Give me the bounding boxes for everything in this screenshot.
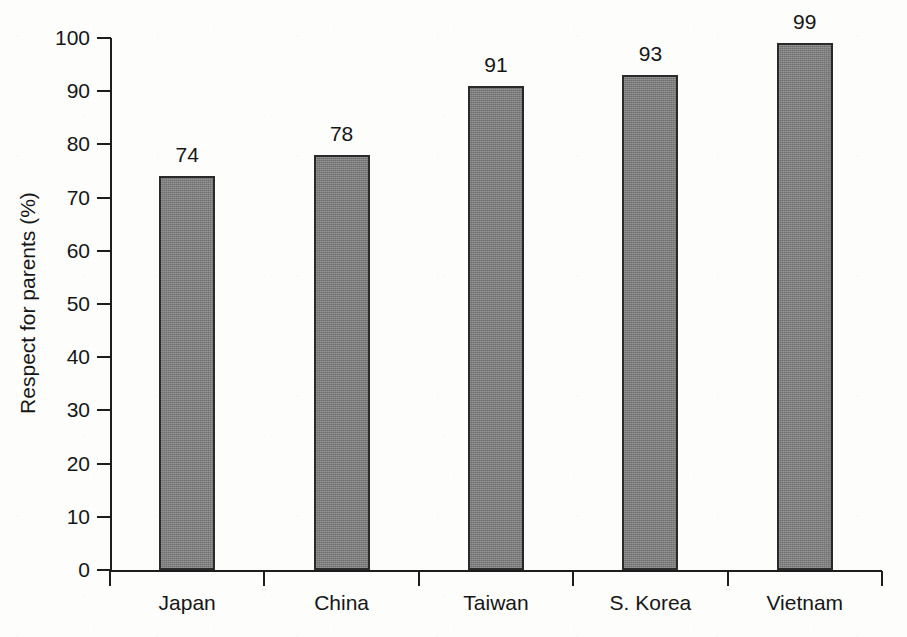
bar-s-korea [622, 75, 678, 570]
y-axis-tick-label: 0 [28, 559, 90, 580]
y-axis-tick [97, 143, 111, 145]
y-axis-tick-label: 100 [28, 27, 90, 48]
x-axis-category-label: Vietnam [725, 592, 885, 613]
y-axis-line [110, 38, 112, 572]
y-axis-tick [97, 409, 111, 411]
x-axis-tick [572, 571, 574, 586]
x-axis-tick [727, 571, 729, 586]
bar-value-label: 91 [456, 54, 536, 75]
bar-vietnam [777, 43, 833, 570]
bar-value-label: 93 [610, 43, 690, 64]
x-axis-tick [263, 571, 265, 586]
bar-value-label: 78 [302, 123, 382, 144]
y-axis-tick [97, 516, 111, 518]
y-axis-tick [97, 197, 111, 199]
y-axis-tick [97, 356, 111, 358]
x-axis-category-label: Taiwan [416, 592, 576, 613]
x-axis-category-label: S. Korea [570, 592, 730, 613]
bar-china [314, 155, 370, 570]
y-axis-title: Respect for parents (%) [16, 93, 40, 513]
y-axis-tick [97, 463, 111, 465]
plot-area: 010203040506070809010074Japan78China91Ta… [0, 0, 907, 637]
x-axis-start-tick [109, 571, 111, 586]
x-axis-tick [418, 571, 420, 586]
y-axis-tick [97, 250, 111, 252]
y-axis-tick [97, 303, 111, 305]
x-axis-category-label: China [262, 592, 422, 613]
x-axis-end-tick [881, 571, 883, 586]
x-axis-line [110, 570, 882, 572]
bar-japan [159, 176, 215, 570]
y-axis-tick [97, 37, 111, 39]
x-axis-category-label: Japan [107, 592, 267, 613]
bar-value-label: 74 [147, 144, 227, 165]
bar-chart-figure: 010203040506070809010074Japan78China91Ta… [0, 0, 907, 637]
bar-value-label: 99 [765, 11, 845, 32]
y-axis-tick [97, 90, 111, 92]
bar-taiwan [468, 86, 524, 570]
